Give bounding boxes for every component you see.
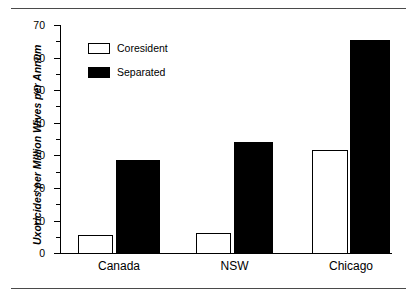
bar-canada-separated	[116, 160, 160, 254]
y-tick-0	[54, 253, 61, 254]
y-minor-tick-45	[56, 106, 61, 107]
x-axis-label-canada: Canada	[78, 259, 160, 273]
y-tick-20	[54, 188, 61, 189]
y-minor-tick-55	[56, 74, 61, 75]
y-tick-70	[54, 25, 61, 26]
bar-nsw-coresident	[196, 233, 231, 254]
legend-label-separated: Separated	[117, 67, 165, 78]
bar-chicago-separated	[350, 40, 390, 254]
bar-chart-plot-area: 70 60 50 40 30 20 10 0 Uxoricides per Mi…	[0, 0, 417, 302]
legend-swatch-coresident-icon	[88, 43, 110, 54]
x-axis-label-nsw: NSW	[196, 259, 273, 273]
legend-item-coresident: Coresident	[88, 40, 168, 57]
y-axis-title: Uxoricides per Million Wives per Annum	[31, 45, 43, 245]
y-tick-10	[54, 221, 61, 222]
y-tick-label-0: 0	[15, 248, 45, 259]
y-tick-60	[54, 58, 61, 59]
y-minor-tick-25	[56, 172, 61, 173]
legend-swatch-separated-icon	[88, 67, 110, 78]
x-axis-label-chicago: Chicago	[312, 259, 390, 273]
y-minor-tick-35	[56, 139, 61, 140]
y-tick-label-70: 70	[15, 20, 45, 31]
bar-nsw-separated	[234, 142, 273, 254]
figure-container: 70 60 50 40 30 20 10 0 Uxoricides per Mi…	[0, 0, 417, 302]
y-minor-tick-15	[56, 204, 61, 205]
legend-label-coresident: Coresident	[117, 43, 168, 54]
legend-item-separated: Separated	[88, 64, 168, 81]
chart-legend: Coresident Separated	[88, 40, 168, 88]
y-tick-30	[54, 155, 61, 156]
y-minor-tick-5	[56, 237, 61, 238]
y-tick-50	[54, 90, 61, 91]
y-tick-40	[54, 123, 61, 124]
bar-canada-coresident	[78, 235, 113, 254]
y-minor-tick-65	[56, 41, 61, 42]
bar-chicago-coresident	[312, 150, 348, 254]
